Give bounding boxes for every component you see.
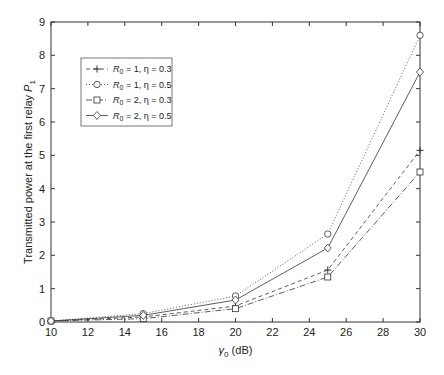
y-tick-label: 8 [39, 49, 45, 61]
line-chart: 10121416182022242628300123456789γ0 (dB)T… [0, 0, 444, 375]
x-tick-label: 24 [303, 326, 315, 338]
x-tick-label: 22 [266, 326, 278, 338]
x-tick-label: 12 [82, 326, 94, 338]
x-tick-label: 30 [414, 326, 426, 338]
x-tick-label: 16 [156, 326, 168, 338]
x-tick-label: 14 [119, 326, 131, 338]
y-tick-label: 2 [39, 249, 45, 261]
x-tick-label: 18 [192, 326, 204, 338]
x-tick-label: 10 [45, 326, 57, 338]
y-tick-label: 1 [39, 283, 45, 295]
y-tick-label: 0 [39, 316, 45, 328]
x-tick-label: 28 [377, 326, 389, 338]
y-tick-label: 6 [39, 116, 45, 128]
y-tick-label: 3 [39, 216, 45, 228]
x-tick-label: 26 [340, 326, 352, 338]
x-tick-label: 20 [229, 326, 241, 338]
y-axis-label: Transmitted power at the first relay P1 [22, 80, 37, 264]
y-tick-label: 5 [39, 149, 45, 161]
x-axis-label: γ0 (dB) [219, 344, 253, 359]
y-tick-label: 9 [39, 16, 45, 28]
y-tick-label: 7 [39, 83, 45, 95]
legend: R0 = 1, η = 0.3R0 = 1, η = 0.5R0 = 2, η … [81, 58, 172, 126]
y-tick-label: 4 [39, 183, 45, 195]
